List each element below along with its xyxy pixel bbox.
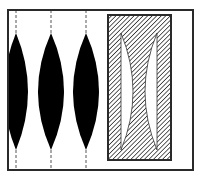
convex-lens (73, 33, 99, 150)
hatched-concave-block (108, 15, 171, 160)
diagram-svg (0, 0, 201, 178)
convex-lens (38, 33, 64, 150)
hatched-rectangle (108, 15, 171, 160)
lens-diagram (0, 0, 201, 178)
convex-lens-group (4, 33, 99, 150)
